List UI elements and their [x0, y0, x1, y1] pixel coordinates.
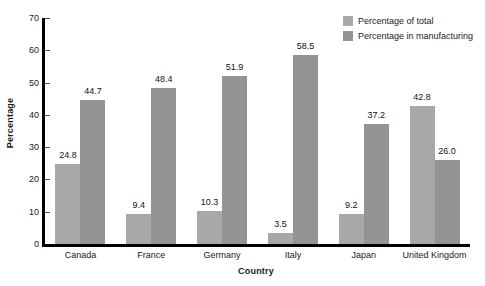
bar-group: 42.826.0 — [399, 18, 470, 244]
bar-value-label: 24.8 — [59, 151, 77, 160]
bar-value-label: 9.2 — [345, 201, 358, 210]
y-axis-title-text: Percentage — [5, 98, 15, 149]
bar[interactable]: 42.8 — [410, 106, 435, 244]
x-tick-label: Japan — [328, 250, 399, 261]
y-tick-label: 40 — [16, 110, 39, 119]
x-tick-label: France — [116, 250, 187, 261]
chart-legend: Percentage of totalPercentage in manufac… — [343, 14, 473, 44]
bar-value-label: 26.0 — [438, 147, 456, 156]
bar[interactable]: 44.7 — [80, 100, 105, 244]
bar-value-label: 51.9 — [226, 63, 244, 72]
bar[interactable]: 48.4 — [151, 88, 176, 244]
x-axis-tick-labels: CanadaFranceGermanyItalyJapanUnited King… — [45, 250, 470, 261]
x-tick-label: Germany — [187, 250, 258, 261]
legend-label: Percentage of total — [358, 16, 434, 26]
y-tick-label: 60 — [16, 46, 39, 55]
x-axis-line — [42, 244, 470, 247]
legend-swatch — [343, 16, 353, 26]
legend-item[interactable]: Percentage of total — [343, 14, 473, 27]
bar-chart-figure: Percentage 010203040506070 24.844.79.448… — [0, 0, 485, 286]
bar-group: 3.558.5 — [257, 18, 328, 244]
y-tick-label: 10 — [16, 207, 39, 216]
bar[interactable]: 3.5 — [268, 233, 293, 244]
bar[interactable]: 9.4 — [126, 214, 151, 244]
bar[interactable]: 9.2 — [339, 214, 364, 244]
x-tick-label: Canada — [45, 250, 116, 261]
y-tick-label: 30 — [16, 143, 39, 152]
x-axis-title: Country — [42, 266, 470, 276]
bar-value-label: 37.2 — [367, 111, 385, 120]
x-tick-label: Italy — [257, 250, 328, 261]
bar-group: 10.351.9 — [187, 18, 258, 244]
bar[interactable]: 51.9 — [222, 76, 247, 244]
bar-group: 24.844.7 — [45, 18, 116, 244]
bar-value-label: 58.5 — [297, 42, 315, 51]
legend-swatch — [343, 31, 353, 41]
y-tick-label: 70 — [16, 14, 39, 23]
bar-value-label: 48.4 — [155, 75, 173, 84]
bar[interactable]: 26.0 — [435, 160, 460, 244]
bar-value-label: 3.5 — [274, 220, 287, 229]
plot-area: 24.844.79.448.410.351.93.558.59.237.242.… — [45, 18, 470, 244]
bar-group: 9.448.4 — [116, 18, 187, 244]
x-tick-label: United Kingdom — [399, 250, 470, 261]
y-tick-label: 0 — [16, 240, 39, 249]
bar-group: 9.237.2 — [328, 18, 399, 244]
bar[interactable]: 10.3 — [197, 211, 222, 244]
bar-value-label: 9.4 — [132, 201, 145, 210]
legend-item[interactable]: Percentage in manufacturing — [343, 29, 473, 42]
legend-label: Percentage in manufacturing — [358, 31, 473, 41]
bar[interactable]: 58.5 — [293, 55, 318, 244]
x-axis-title-text: Country — [238, 266, 274, 276]
bar[interactable]: 37.2 — [364, 124, 389, 244]
bar-value-label: 42.8 — [413, 93, 431, 102]
bar[interactable]: 24.8 — [55, 164, 80, 244]
bar-value-label: 10.3 — [201, 198, 219, 207]
y-tick-label: 50 — [16, 78, 39, 87]
bar-value-label: 44.7 — [84, 87, 102, 96]
y-tick-label: 20 — [16, 175, 39, 184]
